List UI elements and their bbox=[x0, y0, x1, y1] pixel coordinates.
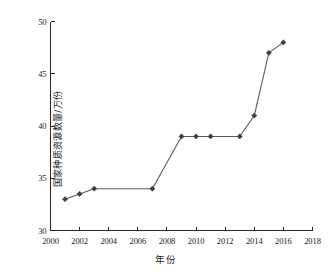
data-point-marker bbox=[77, 191, 82, 196]
x-tick-label: 2008 bbox=[159, 237, 176, 246]
x-tick-label: 2002 bbox=[71, 237, 88, 246]
data-point-marker bbox=[208, 134, 213, 139]
data-point-marker bbox=[179, 134, 184, 139]
y-tick-label: 40 bbox=[31, 122, 47, 131]
data-series-group bbox=[62, 40, 286, 202]
series-line bbox=[65, 42, 283, 199]
data-point-marker bbox=[150, 186, 155, 191]
line-chart: 2000200220042006200820102012201420162018… bbox=[0, 0, 331, 277]
data-point-marker bbox=[92, 186, 97, 191]
data-point-marker bbox=[62, 197, 67, 202]
x-axis-title: 年份 bbox=[0, 252, 331, 266]
x-tick-label: 2012 bbox=[217, 237, 234, 246]
series-markers bbox=[62, 40, 286, 202]
y-axis-title: 国家种质资源数量/万份 bbox=[51, 90, 64, 186]
data-point-marker bbox=[193, 134, 198, 139]
x-tick-label: 2010 bbox=[188, 237, 205, 246]
x-tick-label: 2004 bbox=[100, 237, 117, 246]
axes bbox=[51, 22, 313, 231]
x-axis-ticks bbox=[51, 227, 313, 231]
x-tick-label: 2006 bbox=[130, 237, 147, 246]
y-tick-label: 30 bbox=[31, 226, 47, 235]
x-tick-label: 2016 bbox=[275, 237, 292, 246]
y-tick-label: 45 bbox=[31, 70, 47, 79]
y-tick-label: 35 bbox=[31, 174, 47, 183]
x-tick-label: 2014 bbox=[246, 237, 263, 246]
x-tick-label: 2018 bbox=[304, 237, 321, 246]
y-tick-label: 50 bbox=[31, 17, 47, 26]
x-tick-label: 2000 bbox=[42, 237, 59, 246]
